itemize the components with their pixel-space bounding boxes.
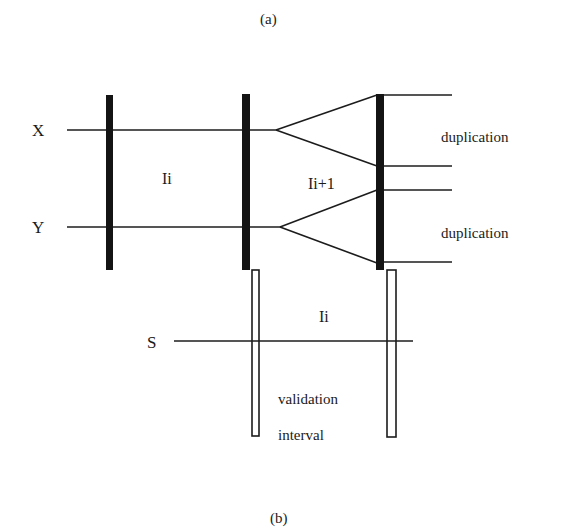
caption-b: (b) <box>270 510 288 527</box>
interval-label-i: Ii <box>162 170 172 187</box>
fork-x-lower <box>276 130 377 166</box>
timing-diagram: (a) (b) X Y S Ii Ii+1 Ii duplication dup… <box>0 0 568 532</box>
duplication-label-bottom: duplication <box>441 225 509 241</box>
interval-label-validation: Ii <box>319 308 329 325</box>
signal-label-y: Y <box>32 218 44 237</box>
duplication-label-top: duplication <box>441 129 509 145</box>
interval-label-i-plus-1: Ii+1 <box>308 175 335 192</box>
interval-boundary-bar-2 <box>242 94 250 270</box>
fork-y-lower <box>280 227 377 263</box>
validation-bar-1 <box>252 270 259 436</box>
interval-boundary-bar-1 <box>106 95 113 270</box>
signal-label-x: X <box>32 121 44 140</box>
interval-boundary-bar-3 <box>376 94 384 270</box>
validation-label-line1: validation <box>278 391 338 407</box>
caption-a: (a) <box>260 11 277 28</box>
validation-label-line2: interval <box>278 427 324 443</box>
signal-label-s: S <box>147 333 156 352</box>
validation-bar-2 <box>387 270 396 437</box>
fork-x-upper <box>276 95 377 130</box>
fork-y-upper <box>280 190 377 227</box>
